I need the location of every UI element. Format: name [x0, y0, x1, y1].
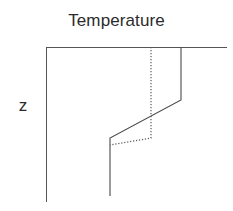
temperature-profile-figure: Temperature z [0, 0, 233, 211]
solid-profile-curve [110, 47, 181, 196]
dotted-profile-curve [110, 47, 151, 145]
x-axis-title: Temperature [0, 11, 233, 31]
y-axis-title: z [10, 96, 36, 116]
